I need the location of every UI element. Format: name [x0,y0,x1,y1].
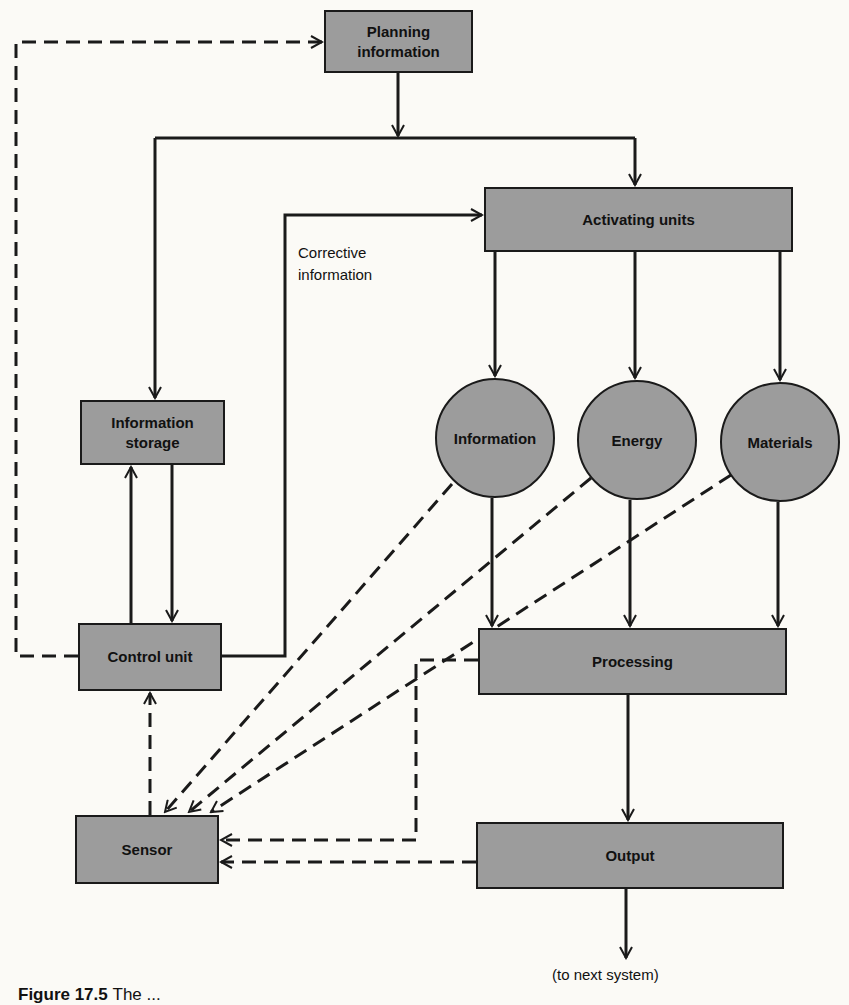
node-information-storage: Information storage [80,400,225,465]
caption-text: The ... [113,985,161,1004]
label-corrective-information: Corrective information [298,242,372,286]
figure-caption: Figure 17.5 The ... [18,985,161,1005]
edge-processing-to-sensor [221,660,478,840]
caption-number: Figure 17.5 [18,985,108,1004]
node-processing: Processing [478,628,787,695]
label-to-next-system: (to next system) [552,964,659,986]
node-planning-information: Planning information [324,10,473,73]
node-information: Information [435,378,555,498]
node-control-unit: Control unit [78,623,222,691]
edge-control-to-planning [16,42,322,656]
node-output: Output [476,822,784,889]
node-sensor: Sensor [75,815,219,884]
node-materials: Materials [720,382,840,502]
node-energy: Energy [577,380,697,500]
node-activating-units: Activating units [484,187,793,252]
